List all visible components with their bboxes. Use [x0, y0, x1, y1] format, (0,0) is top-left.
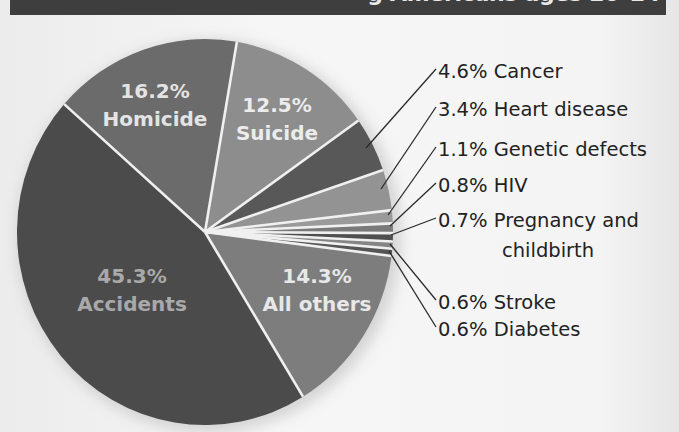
slice-label-stroke: 0.6% Stroke — [438, 291, 556, 314]
slice-percent-all-others: 14.3% — [282, 264, 351, 288]
slice-label-cancer: 4.6% Cancer — [438, 60, 563, 83]
slice-label-homicide: Homicide — [103, 107, 208, 131]
slice-label-pregnancy-and-childbirth: 0.7% Pregnancy and — [438, 209, 639, 232]
slice-percent-homicide: 16.2% — [120, 79, 189, 103]
pie-chart: 16.2%Homicide12.5%Suicide14.3%All others… — [0, 0, 679, 432]
slice-label-diabetes: 0.6% Diabetes — [438, 318, 580, 341]
slice-label-genetic-defects: 1.1% Genetic defects — [438, 138, 647, 161]
outside-labels: 4.6% Cancer3.4% Heart disease1.1% Geneti… — [438, 60, 647, 341]
slice-label-accidents: Accidents — [77, 292, 187, 316]
slice-label-all-others: All others — [262, 292, 371, 316]
slice-percent-accidents: 45.3% — [97, 264, 166, 288]
leader-line-heart-disease — [381, 107, 436, 189]
leader-line-diabetes — [389, 251, 436, 327]
slice-label-heart-disease: 3.4% Heart disease — [438, 98, 628, 121]
slice-label-hiv: 0.8% HIV — [438, 174, 528, 197]
leader-line-cancer — [366, 69, 436, 148]
slice-label-pregnancy-and-childbirth-line2: childbirth — [502, 239, 594, 262]
slice-label-suicide: Suicide — [236, 121, 318, 145]
slice-percent-suicide: 12.5% — [242, 93, 311, 117]
